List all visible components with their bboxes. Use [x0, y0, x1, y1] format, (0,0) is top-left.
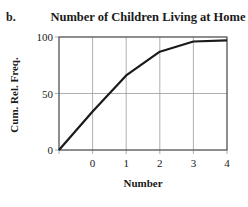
axis-ticks: 01234050100 [37, 31, 231, 169]
x-tick-label: 0 [90, 157, 96, 169]
grid-lines [55, 37, 227, 154]
data-line [59, 40, 227, 150]
y-tick-label: 0 [48, 144, 54, 156]
x-tick-label: 2 [157, 157, 163, 169]
y-tick-label: 100 [37, 31, 54, 43]
x-tick-label: 1 [123, 157, 129, 169]
x-tick-label: 4 [224, 157, 230, 169]
chart-plot: 01234050100 [0, 0, 248, 207]
x-tick-label: 3 [191, 157, 197, 169]
y-tick-label: 50 [42, 88, 54, 100]
